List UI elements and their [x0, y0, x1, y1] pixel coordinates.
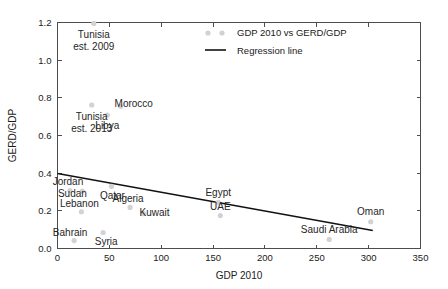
- data-point-label: Saudi Arabia: [301, 224, 358, 235]
- data-point-label: Kuwait: [140, 207, 170, 218]
- data-point-marker: [368, 219, 373, 224]
- data-point-marker: [218, 213, 223, 218]
- x-tick-label: 250: [309, 252, 325, 263]
- data-point-label: Lebanon: [60, 198, 99, 209]
- x-tick-label: 200: [257, 252, 273, 263]
- data-point-label: UAE: [210, 201, 231, 212]
- data-point-label: Jordan: [53, 176, 84, 187]
- y-tick-label: 0.8: [38, 92, 51, 103]
- y-tick-label: 1.0: [38, 55, 51, 66]
- y-tick-label: 0.6: [38, 130, 51, 141]
- data-point-marker: [101, 230, 106, 235]
- y-tick-label: 0.4: [38, 168, 51, 179]
- data-point-marker: [91, 21, 96, 26]
- data-point-label: Tunisiaest. 2009: [73, 29, 115, 52]
- y-axis-title: GERD/GDP: [7, 109, 18, 163]
- data-point-label: Morocco: [115, 98, 154, 109]
- data-point-label: Egypt: [205, 187, 231, 198]
- data-point-label: Oman: [357, 206, 384, 217]
- legend-label-scatter: GDP 2010 vs GERD/GDP: [237, 27, 347, 38]
- x-tick-label: 300: [361, 252, 377, 263]
- data-point-marker: [327, 237, 332, 242]
- x-tick-label: 0: [55, 252, 60, 263]
- x-axis-title: GDP 2010: [216, 270, 263, 281]
- data-point-marker: [128, 205, 133, 210]
- x-tick-label: 150: [205, 252, 221, 263]
- y-tick-label: 0.2: [38, 205, 51, 216]
- data-point-label: Libya: [95, 120, 119, 131]
- x-tick-label: 50: [104, 252, 115, 263]
- legend-label-regression: Regression line: [237, 45, 302, 56]
- data-point-marker: [89, 102, 94, 107]
- data-point-marker: [79, 209, 84, 214]
- data-point-label: Algeria: [113, 193, 145, 204]
- legend-scatter-marker-2: [219, 30, 224, 35]
- y-tick-label: 1.2: [38, 17, 51, 28]
- scatter-chart-figure: 0501001502002503003500.00.20.40.60.81.01…: [0, 0, 448, 289]
- data-point-marker: [109, 184, 114, 189]
- data-point-marker: [71, 238, 76, 243]
- y-tick-label: 0.0: [38, 243, 51, 254]
- legend-scatter-marker-1: [205, 30, 210, 35]
- x-tick-label: 100: [153, 252, 169, 263]
- data-point-label: Bahrain: [53, 227, 87, 238]
- data-point-label: Syria: [95, 236, 118, 247]
- chart-canvas: 0501001502002503003500.00.20.40.60.81.01…: [0, 0, 448, 289]
- x-tick-label: 350: [413, 252, 429, 263]
